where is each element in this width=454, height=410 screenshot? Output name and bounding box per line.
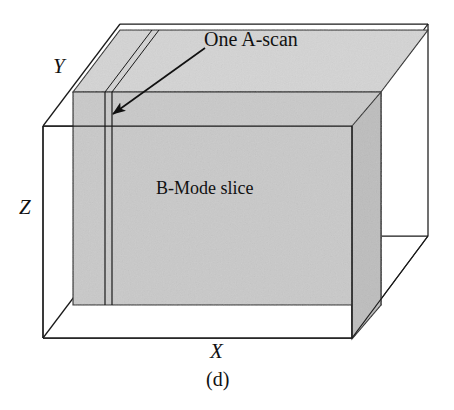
volume-diagram-svg — [0, 0, 454, 410]
figure-caption: (d) — [206, 369, 229, 389]
annotation-b-mode-slice: B-Mode slice — [156, 179, 253, 197]
axis-label-x: X — [210, 341, 223, 362]
axis-label-z: Z — [19, 197, 31, 218]
figure-container: Y Z X One A-scan B-Mode slice (d) — [0, 0, 454, 410]
slice-front-face — [73, 92, 381, 305]
slice-right-face — [352, 92, 381, 339]
annotation-one-a-scan: One A-scan — [204, 29, 298, 49]
axis-label-y: Y — [53, 56, 65, 77]
